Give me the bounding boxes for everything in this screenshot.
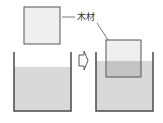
wood-block-after-submerged [106, 61, 141, 77]
wood-label: 木材 [77, 11, 95, 22]
wood-block-after-above [106, 40, 141, 61]
wood-floating-diagram: 木材 [0, 0, 163, 123]
right-arrow-icon [79, 51, 88, 70]
leader-line-right [97, 23, 108, 40]
wood-block-before [24, 7, 60, 44]
water-before [14, 67, 71, 111]
